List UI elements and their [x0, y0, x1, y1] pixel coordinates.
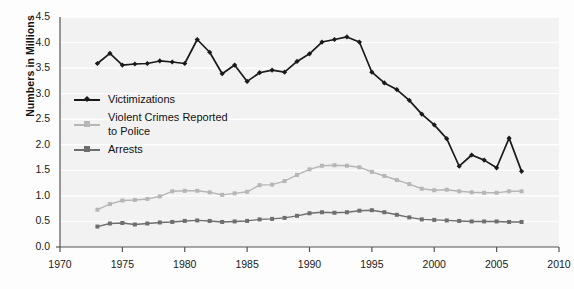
data-point: [382, 210, 386, 214]
data-point: [345, 210, 349, 214]
data-point: [445, 218, 449, 222]
data-point: [245, 219, 249, 223]
data-point: [382, 174, 386, 178]
data-point: [482, 191, 486, 195]
data-point: [158, 194, 162, 198]
data-point: [507, 220, 511, 224]
data-point: [495, 191, 499, 195]
legend-label-victimizations: Victimizations: [108, 92, 175, 106]
data-point: [520, 189, 524, 193]
data-point: [183, 219, 187, 223]
legend-marker-violent-crimes-reported: [72, 118, 102, 132]
data-point: [95, 225, 99, 229]
data-point: [220, 193, 224, 197]
data-point: [470, 219, 474, 223]
data-point: [457, 189, 461, 193]
data-point: [170, 189, 174, 193]
data-point: [245, 190, 249, 194]
data-point: [332, 163, 336, 167]
data-point: [407, 215, 411, 219]
data-point: [120, 221, 124, 225]
data-point: [233, 219, 237, 223]
data-point: [507, 189, 511, 193]
data-point: [270, 183, 274, 187]
data-point: [357, 209, 361, 213]
data-point: [308, 211, 312, 215]
line-chart: Numbers in Millions 0.00.51.01.52.02.53.…: [0, 0, 574, 289]
legend-label-violent-crimes-reported-line2: to Police: [108, 124, 228, 138]
data-point: [295, 173, 299, 177]
data-point: [420, 217, 424, 221]
data-point: [520, 220, 524, 224]
data-point: [183, 189, 187, 193]
data-point: [395, 213, 399, 217]
data-point: [295, 214, 299, 218]
data-point: [270, 217, 274, 221]
data-point: [470, 190, 474, 194]
data-point: [133, 198, 137, 202]
legend-label-arrests: Arrests: [108, 142, 143, 156]
data-point: [320, 164, 324, 168]
data-point: [108, 221, 112, 225]
data-point: [95, 208, 99, 212]
legend-label-violent-crimes-reported: Violent Crimes Reported: [108, 110, 228, 124]
chart-legend: Victimizations Violent Crimes Reported t…: [72, 92, 228, 160]
data-point: [420, 187, 424, 191]
data-point: [283, 216, 287, 220]
data-point: [108, 202, 112, 206]
legend-item-violent-crimes-reported[interactable]: Violent Crimes Reported to Police: [72, 110, 228, 127]
data-point: [208, 219, 212, 223]
data-point: [283, 179, 287, 183]
data-point: [133, 223, 137, 227]
data-point: [395, 178, 399, 182]
data-point: [195, 218, 199, 222]
data-point: [170, 220, 174, 224]
data-point: [370, 208, 374, 212]
data-point: [332, 211, 336, 215]
legend-marker-victimizations: [72, 93, 102, 107]
data-point: [407, 182, 411, 186]
legend-item-victimizations[interactable]: Victimizations: [72, 92, 228, 109]
data-point: [357, 165, 361, 169]
data-point: [482, 219, 486, 223]
data-point: [145, 197, 149, 201]
legend-item-arrests[interactable]: Arrests: [72, 142, 228, 159]
data-point: [158, 220, 162, 224]
data-point: [145, 221, 149, 225]
data-point: [208, 190, 212, 194]
data-point: [258, 217, 262, 221]
data-point: [495, 219, 499, 223]
data-point: [195, 189, 199, 193]
data-point: [432, 188, 436, 192]
data-point: [320, 210, 324, 214]
data-point: [120, 198, 124, 202]
data-point: [258, 183, 262, 187]
data-point: [345, 164, 349, 168]
data-point: [370, 170, 374, 174]
data-point: [445, 188, 449, 192]
data-point: [233, 191, 237, 195]
data-point: [220, 220, 224, 224]
legend-marker-arrests: [72, 143, 102, 157]
data-point: [308, 167, 312, 171]
data-point: [432, 218, 436, 222]
data-point: [457, 219, 461, 223]
